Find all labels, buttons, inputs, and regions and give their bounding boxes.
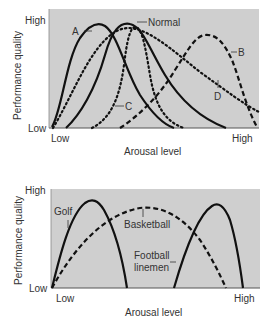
label-d: D [214,91,221,102]
top-chart: A Normal B C D High Low Low High Arousal… [12,9,259,157]
label-basketball: Basketball [124,219,170,230]
figure: A Normal B C D High Low Low High Arousal… [0,0,270,330]
top-x-low: Low [51,133,70,144]
top-y-title: Performance quality [12,31,23,120]
bottom-chart: Golf Basketball Football linemen High Lo… [13,185,260,318]
bottom-y-high: High [25,185,46,196]
label-football-1: Football [134,250,170,261]
bottom-y-title: Performance quality [13,196,24,285]
bottom-x-high: High [234,293,255,304]
bottom-plot-area [51,189,260,288]
top-x-title: Arousal level [124,146,181,157]
top-y-high: High [25,15,46,26]
bottom-x-title: Arousal level [125,307,182,318]
label-golf: Golf [54,206,73,217]
top-x-high: High [232,133,253,144]
label-b: B [238,47,245,58]
bottom-x-low: Low [56,293,75,304]
label-football-2: linemen [134,262,169,273]
label-a: A [72,26,79,37]
label-c: C [125,101,132,112]
label-normal: Normal [148,17,180,28]
top-y-low: Low [28,123,47,134]
bottom-y-low: Low [29,283,48,294]
